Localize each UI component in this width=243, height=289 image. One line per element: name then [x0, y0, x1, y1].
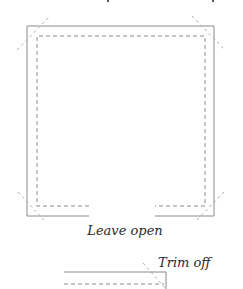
pattern-diagram: Leave open Trim off [0, 0, 243, 289]
trim-off-label: Trim off [158, 255, 213, 270]
corner-trim-guides [17, 16, 225, 220]
corner-guide-top-left [17, 16, 50, 50]
leave-open-label: Leave open [86, 223, 162, 238]
corner-guide-top-right [192, 16, 225, 50]
cropped-title-descenders [107, 0, 214, 2]
outer-outline [27, 26, 214, 216]
inner-seam-dashed [37, 36, 205, 206]
trim-solid-line [64, 272, 166, 289]
trim-detail: Trim off [64, 255, 213, 289]
